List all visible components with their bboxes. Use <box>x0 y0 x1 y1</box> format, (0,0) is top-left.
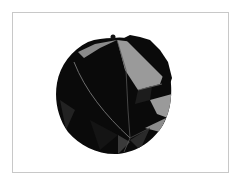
sphere-body <box>40 30 190 170</box>
sphere-render <box>0 0 243 185</box>
